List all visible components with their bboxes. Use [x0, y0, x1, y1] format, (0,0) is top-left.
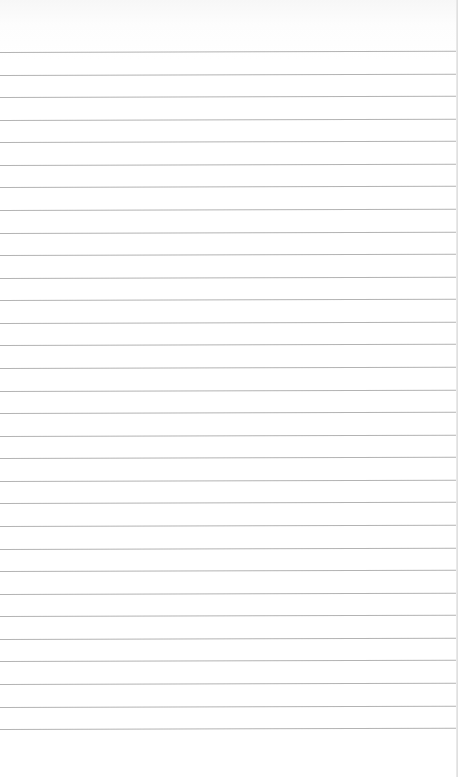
ruled-line — [0, 186, 456, 188]
ruled-line — [0, 705, 456, 707]
ruled-line — [0, 683, 456, 685]
ruled-line — [0, 299, 456, 301]
ruled-line — [0, 389, 456, 391]
ruled-line — [0, 118, 456, 120]
ruled-line — [0, 96, 456, 98]
ruled-line — [0, 231, 456, 233]
ruled-line — [0, 525, 456, 527]
ruled-line — [0, 457, 456, 459]
lined-paper — [0, 0, 458, 777]
ruled-line — [0, 73, 456, 75]
ruled-line — [0, 51, 456, 53]
ruled-line — [0, 638, 456, 640]
ruled-line — [0, 434, 456, 436]
ruled-line — [0, 141, 456, 143]
ruled-line — [0, 412, 456, 414]
ruled-line — [0, 502, 456, 504]
ruled-line — [0, 615, 456, 617]
ruled-line — [0, 547, 456, 549]
ruled-line — [0, 254, 456, 256]
ruled-line — [0, 728, 456, 730]
ruled-line — [0, 344, 456, 346]
ruled-line — [0, 570, 456, 572]
ruled-line — [0, 480, 456, 482]
ruled-line — [0, 322, 456, 324]
ruled-line — [0, 367, 456, 369]
ruled-line — [0, 660, 456, 662]
ruled-line — [0, 592, 456, 594]
ruled-line — [0, 164, 456, 166]
ruled-line — [0, 209, 456, 211]
ruled-line — [0, 276, 456, 278]
